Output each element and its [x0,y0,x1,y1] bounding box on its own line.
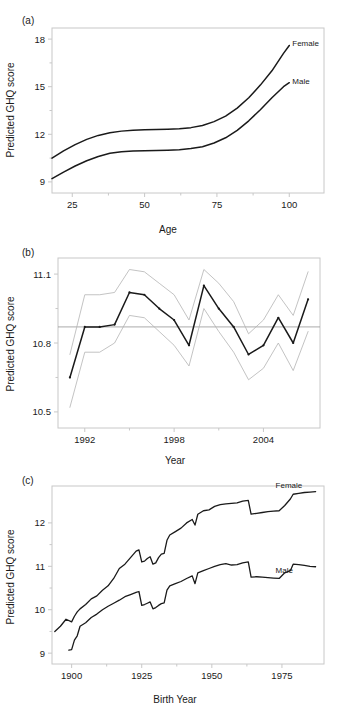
panel-c-xlabel: Birth Year [153,694,197,705]
svg-text:Male: Male [292,77,310,86]
panel-b-plot: (b) 19921998200410.510.811.1 Year Predic… [0,236,337,471]
svg-text:15: 15 [34,81,45,92]
figure-three-panel-ghq: (a) 2550751009121518 Age Predicted GHQ s… [0,0,337,710]
svg-text:75: 75 [212,199,223,210]
panel-a: (a) 2550751009121518 Age Predicted GHQ s… [0,0,337,240]
panel-a-xlabel: Age [159,224,177,235]
panel-c-ticks: 19001925195019759101112 [34,517,292,681]
svg-text:1992: 1992 [74,434,95,445]
svg-text:2004: 2004 [253,434,274,445]
svg-text:10.8: 10.8 [33,338,52,349]
svg-text:Male: Male [276,566,294,575]
panel-a-plot: (a) 2550751009121518 Age Predicted GHQ s… [0,0,337,240]
svg-text:12: 12 [34,517,45,528]
svg-text:10: 10 [34,604,45,615]
panel-c-ylabel: Predicted GHQ score [5,529,16,624]
svg-text:12: 12 [34,129,45,140]
panel-b: (b) 19921998200410.510.811.1 Year Predic… [0,236,337,471]
svg-text:11.1: 11.1 [33,269,51,280]
svg-text:9: 9 [40,648,45,659]
svg-text:18: 18 [34,34,45,45]
panel-c-series-labels: FemaleMale [276,481,303,575]
svg-text:Female: Female [276,481,303,490]
svg-text:9: 9 [40,176,45,187]
panel-b-letter: (b) [22,247,34,258]
svg-text:10.5: 10.5 [33,406,52,417]
panel-b-ticks: 19921998200410.510.811.1 [33,269,275,445]
panel-a-series-labels: FemaleMale [292,39,319,85]
svg-text:1998: 1998 [164,434,185,445]
panel-a-letter: (a) [22,15,34,26]
svg-text:1925: 1925 [131,670,152,681]
svg-text:1975: 1975 [271,670,292,681]
panel-c-plot: (c) 19001925195019759101112 Birth Year P… [0,462,337,710]
svg-text:25: 25 [67,199,78,210]
svg-text:100: 100 [281,199,297,210]
panel-c: (c) 19001925195019759101112 Birth Year P… [0,462,337,710]
svg-text:50: 50 [139,199,150,210]
svg-text:11: 11 [35,561,45,572]
svg-text:1900: 1900 [61,670,82,681]
panel-c-letter: (c) [22,475,34,486]
panel-a-ylabel: Predicted GHQ score [5,62,16,157]
panel-a-series [52,45,289,178]
svg-text:1950: 1950 [201,670,222,681]
panel-b-ylabel: Predicted GHQ score [5,296,16,391]
panel-b-series [69,269,309,407]
panel-a-ticks: 2550751009121518 [34,34,297,210]
svg-text:Female: Female [292,39,319,48]
